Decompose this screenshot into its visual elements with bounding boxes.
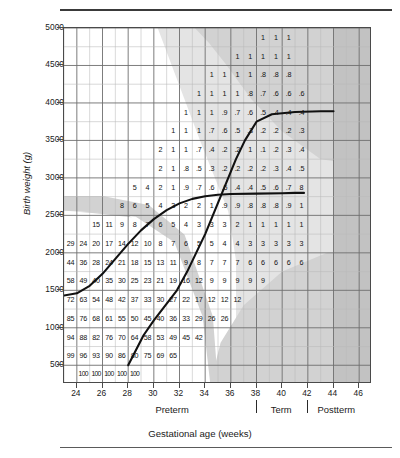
x-tick-label: 38 — [251, 388, 260, 398]
x-tick-label: 40 — [276, 388, 285, 398]
chart-plot-area: 111111111111.8.8.81111.8.7.6.6.6111.9.7.… — [63, 27, 371, 383]
lower-percentile-birthweight-curve — [64, 193, 304, 296]
x-tick-label: 34 — [199, 388, 208, 398]
reference-curves — [64, 28, 371, 383]
figure-top-rule — [60, 9, 392, 11]
x-tick-mark — [153, 383, 154, 388]
x-tick-label: 46 — [353, 388, 362, 398]
curves-layer — [64, 28, 370, 382]
x-tick-mark — [76, 383, 77, 388]
band-divider — [307, 400, 308, 413]
x-tick-label: 24 — [71, 388, 80, 398]
x-tick-mark — [281, 383, 282, 388]
chart-figure: Birth weight (g) Gestational age (weeks)… — [0, 0, 400, 458]
x-tick-label: 32 — [174, 388, 183, 398]
x-tick-label: 36 — [225, 388, 234, 398]
x-tick-mark — [179, 383, 180, 388]
x-tick-label: 44 — [328, 388, 337, 398]
figure-bottom-rule — [60, 447, 392, 448]
x-tick-mark — [358, 383, 359, 388]
x-tick-mark — [333, 383, 334, 388]
y-axis-label: Birth weight (g) — [21, 114, 32, 254]
upper-percentile-birthweight-curve — [128, 111, 333, 365]
band-label-preterm: Preterm — [155, 404, 188, 415]
band-divider — [256, 400, 257, 413]
x-tick-label: 42 — [302, 388, 311, 398]
x-tick-mark — [307, 383, 308, 388]
band-label-term: Term — [271, 404, 292, 415]
x-tick-mark — [230, 383, 231, 388]
x-tick-label: 28 — [122, 388, 131, 398]
band-label-postterm: Postterm — [318, 404, 356, 415]
x-tick-label: 30 — [148, 388, 157, 398]
x-tick-mark — [127, 383, 128, 388]
x-tick-mark — [204, 383, 205, 388]
x-axis-label: Gestational age (weeks) — [0, 428, 400, 439]
x-tick-label: 26 — [97, 388, 106, 398]
x-tick-mark — [256, 383, 257, 388]
x-tick-mark — [102, 383, 103, 388]
